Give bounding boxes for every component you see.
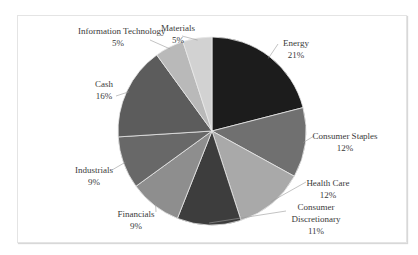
label-materials: Materials 5% xyxy=(160,22,196,46)
leader-line xyxy=(112,162,125,170)
pie-chart xyxy=(0,0,418,255)
label-consumer-staples: Consumer Staples 12% xyxy=(312,130,378,154)
label-energy: Energy 21% xyxy=(274,37,318,61)
label-cash: Cash 16% xyxy=(92,78,116,102)
label-consumer-discretionary: Consumer Discretionary 11% xyxy=(284,201,348,237)
label-information-technology: Information Technology 5% xyxy=(78,25,158,49)
label-health-care: Health Care 12% xyxy=(303,177,353,201)
label-industrials: Industrials 9% xyxy=(74,164,114,188)
label-financials: Financials 9% xyxy=(116,208,156,232)
